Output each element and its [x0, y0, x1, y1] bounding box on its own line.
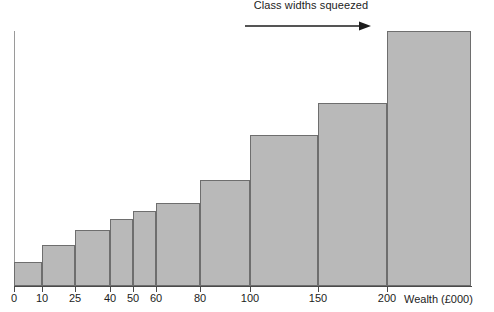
histogram-bar	[156, 203, 200, 286]
x-axis-tick-label: 60	[136, 292, 176, 304]
x-axis-tick-label: 200	[367, 292, 407, 304]
histogram-figure: Class widths squeezed 010254050608010015…	[0, 0, 494, 312]
x-axis-tick-label: 25	[55, 292, 95, 304]
x-axis-tick-label: 100	[230, 292, 270, 304]
annotation-label: Class widths squeezed	[226, 0, 396, 11]
histogram-bar	[387, 31, 471, 286]
arrow-right-icon	[245, 17, 371, 27]
histogram-bar	[14, 262, 42, 286]
histogram-bar	[42, 245, 75, 286]
x-axis-tick-label: 150	[298, 292, 338, 304]
x-axis-tick-label: 80	[180, 292, 220, 304]
histogram-bar	[200, 180, 250, 286]
histogram-bar	[75, 230, 110, 286]
x-axis-line	[14, 286, 472, 287]
histogram-bar	[133, 211, 156, 286]
histogram-bar	[110, 219, 133, 286]
histogram-bar	[250, 135, 318, 286]
x-axis-title: Wealth (£000)	[404, 293, 473, 305]
histogram-bar	[318, 103, 387, 286]
y-axis-line	[14, 31, 15, 286]
